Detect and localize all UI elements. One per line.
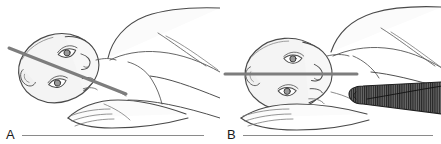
hand xyxy=(241,104,369,130)
torso-outline xyxy=(108,8,220,58)
shoulder-roll xyxy=(349,82,441,114)
scapula-line xyxy=(158,33,206,66)
upper-arm-contour xyxy=(166,36,218,70)
neck-outline xyxy=(327,55,349,57)
torso-outline xyxy=(331,7,441,52)
panel-label-b: B xyxy=(227,128,236,141)
caption-rule-b xyxy=(243,135,433,136)
torso-lower-contour xyxy=(110,51,220,72)
shoulder-fold xyxy=(128,62,162,104)
scapula-line xyxy=(381,28,435,66)
panel-label-a: A xyxy=(6,128,15,141)
panel-b: B xyxy=(221,0,441,144)
figure-root: A xyxy=(0,0,441,144)
hand xyxy=(68,100,188,128)
torso-lower-contour xyxy=(333,47,441,68)
panel-a: A xyxy=(0,0,220,144)
caption-rule-a xyxy=(22,135,204,136)
neck-crease xyxy=(331,92,351,99)
panel-a-illustration xyxy=(0,0,220,144)
forearm-upper-edge xyxy=(150,76,220,98)
panel-b-illustration xyxy=(221,0,441,144)
